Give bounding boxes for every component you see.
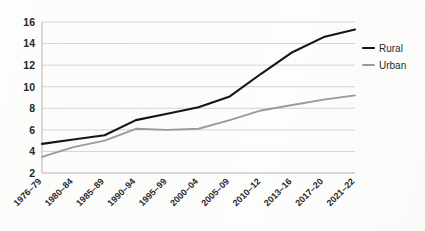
y-tick-label: 14 — [23, 37, 35, 49]
y-tick-label: 2 — [29, 167, 35, 179]
y-tick-label: 16 — [23, 16, 35, 28]
x-tick-label: 1980–84 — [43, 176, 75, 208]
series-line-urban — [42, 95, 355, 156]
x-tick-label: 1995–99 — [137, 176, 169, 208]
y-tick-label: 12 — [23, 59, 35, 71]
chart-page: 246810121416 1976–791980–841985–891990–9… — [0, 0, 425, 231]
x-tick-label: 2000–04 — [168, 176, 200, 208]
x-tick-label: 2010–12 — [231, 176, 263, 208]
legend-label-urban: Urban — [379, 60, 406, 71]
data-series — [42, 30, 355, 157]
y-axis-tick-labels: 246810121416 — [23, 16, 35, 179]
x-tick-label: 1985–89 — [74, 176, 106, 208]
x-tick-label: 2013–16 — [262, 176, 294, 208]
line-chart: 246810121416 1976–791980–841985–891990–9… — [0, 0, 425, 231]
y-tick-label: 4 — [29, 145, 35, 157]
x-axis-tick-labels: 1976–791980–841985–891990–941995–992000–… — [12, 176, 357, 208]
x-tick-label: 2021–22 — [325, 176, 357, 208]
chart-legend: RuralUrban — [363, 43, 406, 71]
y-tick-label: 8 — [29, 102, 35, 114]
x-tick-label: 2005–09 — [199, 176, 231, 208]
x-tick-label: 1976–79 — [12, 176, 44, 208]
x-tick-label: 2017–20 — [293, 176, 325, 208]
x-tick-label: 1990–94 — [105, 176, 137, 208]
y-tick-label: 10 — [23, 81, 35, 93]
y-tick-label: 6 — [29, 124, 35, 136]
legend-label-rural: Rural — [379, 43, 403, 54]
